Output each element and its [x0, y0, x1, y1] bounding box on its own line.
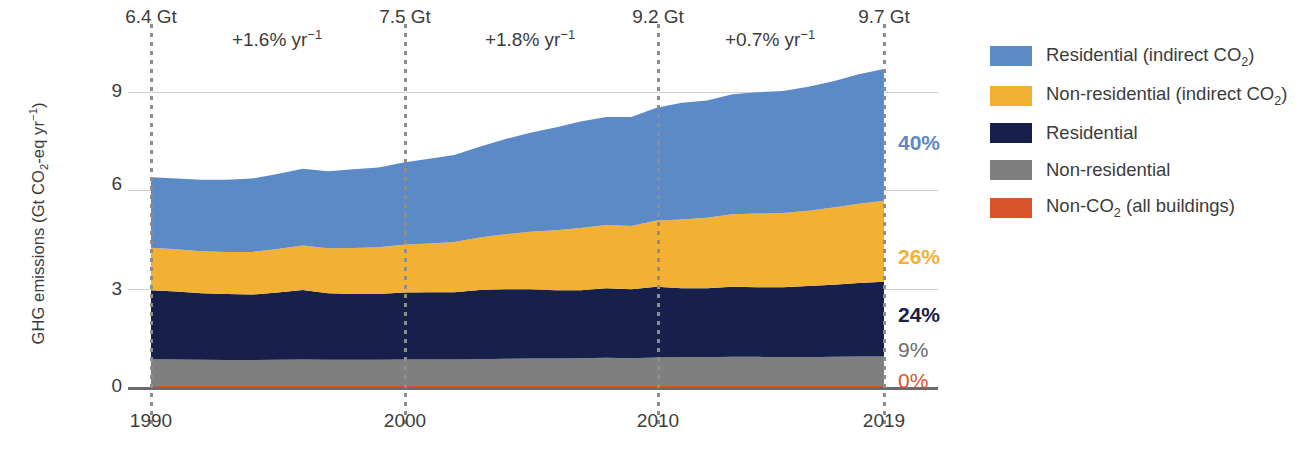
- total-label-2019: 9.7 Gt: [809, 6, 959, 28]
- legend-label-residential: Residential: [1046, 122, 1138, 144]
- total-label-1990: 6.4 Gt: [76, 6, 226, 28]
- share-label-non-co2: 0%: [898, 369, 928, 393]
- total-label-2010: 9.2 Gt: [583, 6, 733, 28]
- area-non-co2-all-buildings: [151, 386, 884, 387]
- legend: Residential (indirect CO2) Non-residenti…: [990, 44, 1305, 235]
- growth-rate-2010-2019-text: +0.7% yr: [725, 29, 801, 50]
- growth-rate-2000-2010-sup: −1: [560, 27, 575, 42]
- legend-label-non-residential: Non-residential: [1046, 159, 1170, 181]
- y-axis-title-text: GHG emissions (Gt CO2-eq yr−1): [28, 102, 46, 344]
- legend-item-residential-indirect-co2[interactable]: Residential (indirect CO2): [990, 44, 1305, 69]
- legend-label-non-residential-indirect-co2: Non-residential (indirect CO2): [1046, 83, 1287, 108]
- total-label-2000: 7.5 Gt: [330, 6, 480, 28]
- area-non-residential: [151, 357, 884, 387]
- x-tick-label-2000: 2000: [345, 410, 465, 432]
- growth-rate-2010-2019: +0.7% yr−1: [660, 27, 880, 51]
- growth-rate-1990-2000-sup: −1: [307, 27, 322, 42]
- marker-line-2019: [883, 24, 886, 424]
- chart-figure: GHG emissions (Gt CO2-eq yr−1) 9 6 3 0 6…: [0, 0, 1309, 451]
- y-tick-label-6: 6: [88, 173, 122, 195]
- growth-rate-2000-2010: +1.8% yr−1: [420, 27, 640, 51]
- legend-item-non-residential[interactable]: Non-residential: [990, 159, 1305, 181]
- growth-rate-2000-2010-text: +1.8% yr: [485, 29, 561, 50]
- share-label-residential-indirect: 40%: [898, 131, 940, 155]
- stacked-area-plot: [151, 18, 884, 390]
- share-label-residential: 24%: [898, 303, 940, 327]
- legend-item-residential[interactable]: Residential: [990, 122, 1305, 144]
- x-tick-label-2010: 2010: [598, 410, 718, 432]
- legend-label-non-co2-all-buildings: Non-CO2 (all buildings): [1046, 195, 1235, 220]
- legend-swatch-non-residential-indirect-co2: [990, 86, 1032, 106]
- legend-swatch-residential-indirect-co2: [990, 46, 1032, 66]
- growth-rate-1990-2000: +1.6% yr−1: [167, 27, 387, 51]
- marker-line-2010: [657, 24, 660, 424]
- marker-line-1990: [150, 24, 153, 424]
- y-tick-label-9: 9: [88, 80, 122, 102]
- legend-label-residential-indirect-co2: Residential (indirect CO2): [1046, 44, 1255, 69]
- legend-item-non-co2-all-buildings[interactable]: Non-CO2 (all buildings): [990, 195, 1305, 220]
- y-axis-title: GHG emissions (Gt CO2-eq yr−1): [27, 53, 50, 393]
- y-tick-label-3: 3: [88, 278, 122, 300]
- y-tick-label-0: 0: [88, 375, 122, 397]
- legend-item-non-residential-indirect-co2[interactable]: Non-residential (indirect CO2): [990, 83, 1305, 108]
- x-tick-label-1990: 1990: [91, 410, 211, 432]
- marker-line-2000: [404, 24, 407, 424]
- growth-rate-2010-2019-sup: −1: [800, 27, 815, 42]
- legend-swatch-non-residential: [990, 160, 1032, 180]
- x-tick-label-2019: 2019: [824, 410, 944, 432]
- share-label-non-residential-indirect: 26%: [898, 245, 940, 269]
- share-label-non-residential: 9%: [898, 338, 928, 362]
- legend-swatch-residential: [990, 123, 1032, 143]
- growth-rate-1990-2000-text: +1.6% yr: [232, 29, 308, 50]
- legend-swatch-non-co2-all-buildings: [990, 198, 1032, 218]
